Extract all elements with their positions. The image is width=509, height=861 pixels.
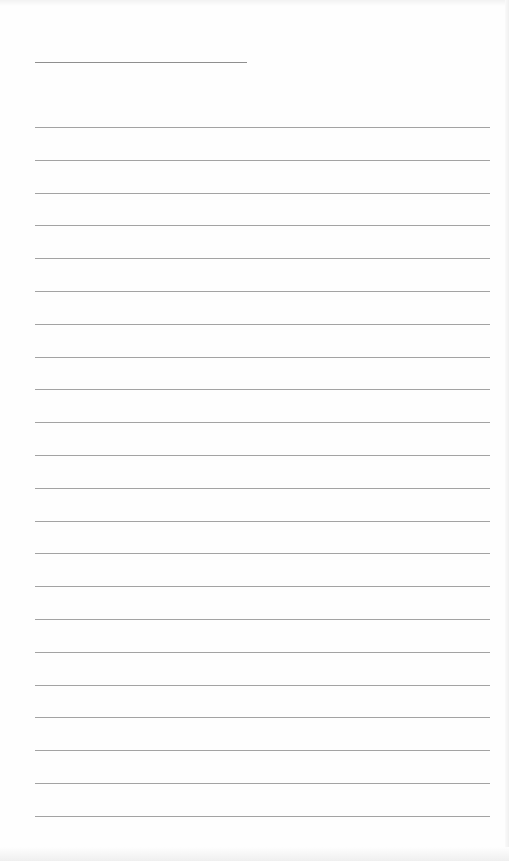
ruled-line [35, 258, 490, 259]
ruled-line [35, 488, 490, 489]
ruled-line [35, 455, 490, 456]
ruled-line [35, 521, 490, 522]
ruled-line [35, 324, 490, 325]
ruled-line [35, 717, 490, 718]
header-write-line [35, 62, 247, 63]
ruled-line [35, 193, 490, 194]
lined-paper-page [0, 0, 509, 861]
ruled-line [35, 553, 490, 554]
ruled-line [35, 422, 490, 423]
ruled-line [35, 357, 490, 358]
ruled-line [35, 586, 490, 587]
ruled-line [35, 225, 490, 226]
ruled-line [35, 127, 490, 128]
bottom-edge-shadow [0, 847, 509, 861]
ruled-line [35, 685, 490, 686]
ruled-line [35, 816, 490, 817]
ruled-line [35, 652, 490, 653]
ruled-line [35, 160, 490, 161]
ruled-line [35, 619, 490, 620]
ruled-line [35, 750, 490, 751]
ruled-line [35, 783, 490, 784]
ruled-line [35, 389, 490, 390]
top-edge-shadow [0, 0, 509, 6]
ruled-line [35, 291, 490, 292]
right-edge-shadow [505, 0, 509, 861]
